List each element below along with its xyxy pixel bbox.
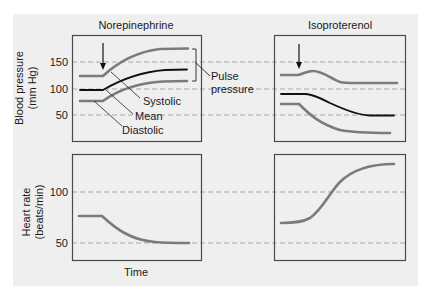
figure: Norepinephrine Isoproterenol Blood press… (0, 0, 428, 293)
x-axis-label: Time (124, 266, 148, 278)
hr-label-line1: Heart rate (20, 188, 32, 237)
title-isoproterenol: Isoproterenol (308, 19, 372, 31)
hr-tick-50: 50 (56, 237, 68, 249)
bp-tick-150: 150 (50, 56, 68, 68)
hr-y-axis-label: Heart rate (beats/min) (20, 184, 45, 239)
hr-label-line2: (beats/min) (33, 184, 45, 239)
label-systolic: Systolic (143, 95, 181, 107)
bp-label-line2: (mm Hg) (26, 67, 38, 110)
hr-tick-100: 100 (50, 186, 68, 198)
bp-tick-100: 100 (50, 83, 68, 95)
label-diastolic: Diastolic (122, 124, 164, 136)
label-pulse: Pulse (211, 70, 239, 82)
figure-background (13, 14, 418, 286)
label-mean: Mean (135, 110, 163, 122)
label-pressure: pressure (211, 83, 254, 95)
bp-tick-50: 50 (56, 109, 68, 121)
title-norepinephrine: Norepinephrine (98, 19, 173, 31)
bp-label-line1: Blood pressure (13, 51, 25, 125)
